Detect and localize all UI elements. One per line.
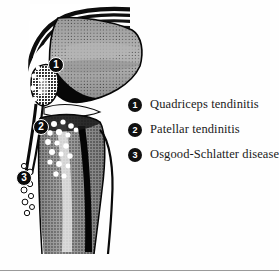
legend-badge-1: 1 xyxy=(128,98,142,112)
legend-item-3[interactable]: 3 Osgood-Schlatter disease xyxy=(128,142,278,167)
legend-item-2[interactable]: 2 Patellar tendinitis xyxy=(128,117,278,142)
legend-label-2: Patellar tendinitis xyxy=(150,122,240,137)
knee-anatomy-illustration: 1 2 3 xyxy=(0,0,145,258)
marker-3-osgood-schlatter[interactable]: 3 xyxy=(16,170,32,186)
legend-item-1[interactable]: 1 Quadriceps tendinitis xyxy=(128,92,278,117)
knee-tendinitis-figure: 1 2 3 1 Quadriceps tendinitis 2 Patellar… xyxy=(0,0,279,272)
marker-2-patellar[interactable]: 2 xyxy=(33,119,49,135)
legend-label-1: Quadriceps tendinitis xyxy=(150,97,259,112)
legend-label-3: Osgood-Schlatter disease xyxy=(150,147,279,162)
bottom-separator-rule xyxy=(0,270,279,271)
legend-badge-2: 2 xyxy=(128,123,142,137)
marker-1-quadriceps[interactable]: 1 xyxy=(48,57,64,73)
legend: 1 Quadriceps tendinitis 2 Patellar tendi… xyxy=(128,92,278,167)
legend-badge-3: 3 xyxy=(128,148,142,162)
anatomy-drawing xyxy=(0,0,145,258)
